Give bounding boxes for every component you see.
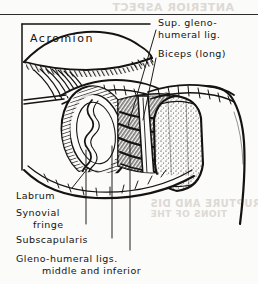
label-synovial-fringe: Synovialfringe [16, 207, 64, 230]
label-biceps-long-head: Biceps (long) [158, 48, 226, 60]
retractor-bar [24, 95, 66, 104]
label-superior-glenohumeral-ligament: Sup. gleno-humeral lig. [158, 17, 220, 40]
label-glenohumeral-ligaments: Gleno-humeral ligs.middle and inferior [16, 253, 141, 276]
arm-contour [206, 86, 245, 224]
figure-page: ANTERIOR ASPECT RUPTURE AND DIS TIONS OF… [0, 0, 258, 284]
label-synovial-line2: fringe [16, 219, 64, 231]
label-synovial-line1: Synovial [16, 207, 60, 218]
label-ghl-line2: middle and inferior [16, 265, 141, 277]
label-sup-gh-line1: Sup. gleno- [158, 17, 217, 28]
label-subscapularis: Subscapularis [16, 234, 88, 246]
label-acromion: Acromion [30, 33, 94, 45]
label-ghl-line1: Gleno-humeral ligs. [16, 253, 118, 264]
label-sup-gh-line2: humeral lig. [158, 29, 220, 41]
label-labrum: Labrum [16, 190, 55, 202]
